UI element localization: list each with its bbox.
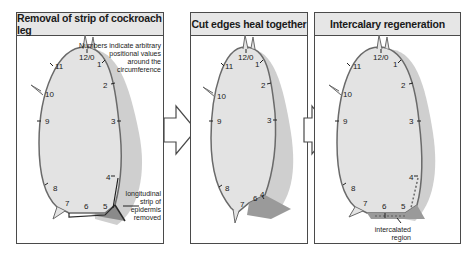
callout-line: strip of (140, 198, 161, 206)
note-line: around the (128, 58, 162, 65)
callout-line: removed (134, 214, 161, 221)
panel-regeneration: Intercalary regeneration 12/0 1 2 3 4 5 … (314, 12, 461, 244)
positional-value: 5 (103, 202, 108, 211)
positional-value: 7 (363, 199, 368, 208)
positional-value: 3 (111, 117, 116, 126)
cockroach-leg-diagram-removal: 12/0 1 2 3 4 5 6 7 8 9 10 11 Numbers ind… (17, 13, 165, 245)
note-line: circumference (117, 66, 161, 73)
positional-value: 3 (409, 117, 414, 126)
positional-value: 8 (225, 184, 230, 193)
positional-value: 11 (353, 62, 362, 71)
note-line: Numbers indicate arbitrary (79, 42, 162, 50)
positional-value: 9 (45, 117, 50, 126)
positional-value: 2 (401, 81, 406, 90)
positional-value: 6 (253, 194, 258, 203)
panel-heal: Cut edges heal together 12/0 1 2 3 4 6 7… (190, 12, 308, 244)
positional-value: 4 (409, 173, 414, 182)
positional-value: 8 (351, 184, 356, 193)
positional-value: 11 (225, 62, 234, 71)
positional-value: 10 (45, 90, 54, 99)
positional-value: 8 (53, 184, 58, 193)
positional-value: 6 (382, 202, 387, 211)
cockroach-leg-diagram-healed: 12/0 1 2 3 4 6 7 8 9 10 11 (191, 13, 309, 245)
positional-value: 12/0 (238, 53, 254, 62)
cockroach-leg-diagram-regenerated: 12/0 1 2 3 4 5 6 7 8 9 10 11 intercalate… (315, 13, 462, 245)
callout-line: intercalated (375, 226, 411, 233)
positional-value: 9 (217, 117, 222, 126)
positional-value: 7 (65, 199, 70, 208)
note-line: positional values (109, 50, 161, 58)
positional-value: 1 (255, 60, 260, 69)
positional-value: 10 (343, 90, 352, 99)
positional-value: 11 (55, 62, 64, 71)
positional-value: 12/0 (373, 53, 389, 62)
callout-line: epidermis (131, 206, 162, 214)
positional-value: 3 (267, 116, 272, 125)
positional-value: 12/0 (79, 53, 95, 62)
positional-value: 4 (260, 190, 265, 199)
positional-value: 1 (97, 60, 102, 69)
positional-value: 4 (106, 173, 111, 182)
positional-value: 2 (103, 81, 108, 90)
positional-value: 1 (393, 60, 398, 69)
callout-line: region (392, 234, 412, 242)
positional-value: 5 (401, 202, 406, 211)
positional-value: 6 (84, 202, 89, 211)
panel-removal: Removal of strip of cockroach leg 12/0 1… (16, 12, 164, 244)
positional-value: 9 (343, 117, 348, 126)
positional-value: 2 (261, 81, 266, 90)
positional-value: 7 (240, 200, 245, 209)
callout-line: longitudinal (126, 190, 162, 198)
positional-value: 10 (217, 92, 226, 101)
